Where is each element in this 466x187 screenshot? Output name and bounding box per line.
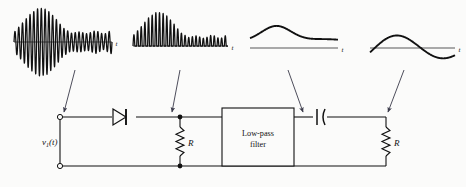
axis-label-t: t: [116, 40, 119, 48]
waveform-trace: [133, 13, 228, 46]
resistor-right-label: R: [393, 138, 400, 148]
filter-label-line1: Low-pass: [242, 129, 274, 138]
resistor-left-label: R: [187, 138, 194, 148]
arrow-to-input-terminal: [64, 70, 75, 112]
input-terminal-top: [57, 114, 62, 119]
resistor-right-symbol: R: [382, 117, 400, 166]
capacitor-symbol: [317, 109, 325, 125]
arrow-to-filter-output: [288, 70, 303, 112]
waveform-trace: [14, 8, 112, 75]
diode-symbol: [113, 109, 126, 125]
circuit-group: v1(t) R Low-pass filter: [42, 108, 400, 169]
arrow-to-rectified-node: [172, 70, 180, 112]
low-pass-filter-box: Low-pass filter: [222, 108, 294, 166]
axis-label-t: t: [232, 44, 235, 52]
waveform-trace: [370, 35, 455, 58]
ac-coupled-output: t: [370, 35, 462, 58]
annotation-arrows: [64, 70, 404, 112]
input-terminal-bottom: [57, 163, 62, 168]
amplitude-modulated-input: t: [14, 8, 119, 75]
axis-label-t: t: [459, 46, 462, 54]
waveform-group: tttt: [14, 8, 462, 75]
arrow-to-output-node: [388, 70, 404, 112]
half-wave-rectified-signal: t: [133, 13, 235, 52]
filtered-envelope-with-dc-offset: t: [250, 26, 345, 54]
waveform-trace: [250, 26, 338, 40]
filter-label-line2: filter: [250, 140, 266, 149]
source-label: v1(t): [42, 137, 58, 148]
resistor-left-symbol: R: [176, 115, 194, 169]
figure-canvas: tttt v1(t) R: [0, 0, 466, 187]
axis-label-t: t: [342, 46, 345, 54]
